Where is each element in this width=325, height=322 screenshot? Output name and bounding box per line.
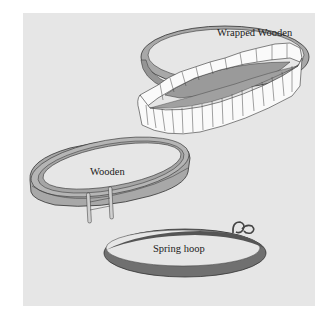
wooden-hoop: Wooden <box>27 127 194 224</box>
wooden-label: Wooden <box>90 166 125 177</box>
wrapped-wooden-hoop: Wrapped Wooden <box>138 26 309 134</box>
hoops-illustration: Wrapped Wooden Wooden Spring hoop <box>0 0 325 322</box>
spring-hoop-handle <box>233 222 254 233</box>
spring-hoop: Spring hoop <box>104 222 266 277</box>
spring-hoop-label: Spring hoop <box>153 243 205 254</box>
wrapped-wooden-label: Wrapped Wooden <box>217 27 293 38</box>
